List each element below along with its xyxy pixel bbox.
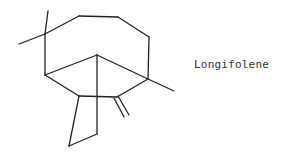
bond-b10 (117, 79, 148, 97)
bond-me2 (19, 34, 45, 44)
bond-b13 (69, 134, 97, 146)
bond-db1 (114, 98, 124, 117)
bond-b6 (45, 55, 97, 75)
longifolene-structure (0, 0, 281, 155)
bond-me3 (148, 79, 174, 91)
bond-b12 (69, 96, 79, 146)
compound-name-label: Longifolene (194, 58, 269, 71)
bond-b8 (45, 75, 79, 96)
bond-b2 (79, 16, 118, 17)
bond-b9 (79, 96, 117, 97)
bond-b3 (118, 17, 149, 37)
bond-b4 (148, 37, 149, 79)
bond-b7 (97, 55, 148, 79)
bond-db2 (118, 96, 129, 115)
bond-me1 (45, 11, 48, 34)
bond-b1 (45, 16, 79, 34)
